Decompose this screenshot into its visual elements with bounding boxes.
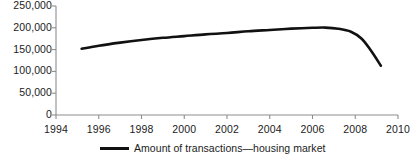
y-axis-tick-label: 100,000 [0,64,52,76]
chart-container: 050,000100,000150,000200,000250,000 1994… [0,0,414,158]
x-axis-tick-label: 2010 [378,123,414,135]
chart-series-group [82,28,381,66]
y-axis-tick-label: 200,000 [0,21,52,33]
legend-label: Amount of transactions—housing market [134,142,326,154]
legend-line-swatch [100,147,129,150]
y-axis-tick-label: 0 [0,108,52,120]
x-axis-tick-label: 1998 [122,123,162,135]
y-axis-tick-label: 50,000 [0,86,52,98]
y-axis-tick-label: 150,000 [0,43,52,55]
x-axis-tick-label: 1994 [36,123,76,135]
x-axis-tick-label: 2004 [250,123,290,135]
x-axis-tick-label: 2008 [335,123,375,135]
y-axis-tick-label: 250,000 [0,0,52,11]
x-axis-tick-label: 2000 [164,123,204,135]
x-axis-tick-label: 2002 [207,123,247,135]
chart-axes [52,6,398,119]
x-axis-tick-label: 1996 [79,123,119,135]
chart-legend: Amount of transactions—housing market [100,142,326,154]
x-axis-tick-label: 2006 [293,123,333,135]
